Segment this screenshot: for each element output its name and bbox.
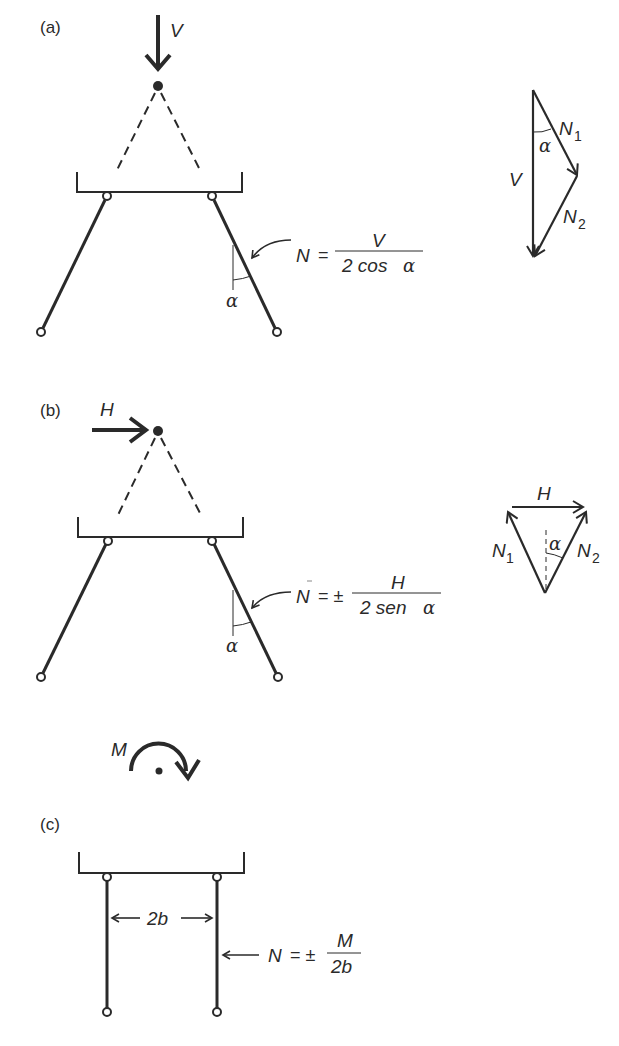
angle-alpha-label: α: [226, 635, 238, 656]
moment-point: [156, 768, 163, 775]
leg-left: [43, 200, 105, 328]
panel-a-label: (a): [40, 18, 61, 37]
svg-text:N: N: [492, 540, 506, 561]
svg-text:1: 1: [506, 550, 514, 566]
svg-text:N: N: [296, 245, 310, 266]
beam: [78, 517, 243, 537]
pin-icon: [37, 328, 45, 336]
pin-icon: [37, 673, 45, 681]
leg-left: [43, 544, 106, 673]
svg-text:H: H: [537, 483, 551, 504]
panel-b-label: (b): [40, 401, 61, 420]
pin-icon: [103, 192, 111, 200]
panel-b: (b) H α N = ± H 2 sen α: [37, 399, 600, 681]
load-arrow-v-icon: [146, 15, 170, 69]
panel-a: (a) V α N = V 2 cos: [37, 15, 586, 336]
moment-label: M: [111, 739, 127, 760]
svg-text:2 cos: 2 cos: [341, 255, 388, 276]
svg-text:V: V: [372, 230, 387, 251]
structural-diagram: (a) V α N = V 2 cos: [0, 0, 619, 1046]
formula-b: N = ± H 2 sen α: [296, 572, 441, 618]
pin-icon: [274, 673, 282, 681]
pin-icon: [208, 537, 216, 545]
svg-text:α: α: [403, 255, 415, 276]
svg-text:M: M: [337, 930, 353, 951]
angle-alpha-label: α: [226, 290, 238, 311]
pointer-arrow-icon: [252, 592, 291, 608]
svg-text:N: N: [268, 945, 282, 966]
load-point: [153, 426, 163, 436]
panel-c: M (c) 2b N = ± M 2b: [40, 739, 361, 1016]
leg-right: [214, 544, 276, 673]
pointer-arrow-icon: [252, 240, 291, 258]
svg-text:= ±: = ±: [318, 586, 344, 606]
moment-arrow-icon: [131, 744, 199, 779]
dashed-line-left: [117, 93, 155, 170]
formula-c: N = ± M 2b: [268, 930, 361, 977]
pin-icon: [208, 192, 216, 200]
angle-arc: [233, 622, 251, 626]
angle-arc: [233, 276, 251, 280]
dashed-line-left: [118, 438, 155, 515]
svg-text:2: 2: [592, 550, 600, 566]
beam: [77, 172, 242, 192]
svg-text:N: N: [577, 540, 591, 561]
leg-right: [214, 200, 275, 328]
dashed-line-right: [161, 93, 200, 170]
load-h-label: H: [100, 399, 114, 420]
svg-text:= ±: = ±: [290, 945, 316, 965]
svg-text:H: H: [391, 572, 405, 593]
pin-icon: [103, 1008, 111, 1016]
panel-c-label: (c): [40, 815, 60, 834]
force-triangle-b: α H N 1 N 2: [492, 483, 600, 593]
dimension-2b: 2b: [112, 908, 212, 929]
beam: [79, 852, 244, 873]
svg-text:2: 2: [578, 216, 586, 232]
svg-text:N: N: [559, 118, 573, 139]
pin-icon: [103, 873, 111, 881]
svg-text:N: N: [296, 586, 310, 607]
svg-text:V: V: [509, 169, 524, 190]
svg-text:N: N: [563, 206, 577, 227]
load-arrow-h-icon: [92, 418, 146, 442]
svg-text:=: =: [318, 245, 329, 265]
pin-icon: [213, 873, 221, 881]
svg-text:1: 1: [574, 128, 582, 144]
force-triangle-a: α V N 1 N 2: [509, 90, 586, 256]
svg-text:α: α: [539, 135, 551, 156]
svg-text:2b: 2b: [330, 956, 352, 977]
svg-text:α: α: [549, 533, 561, 554]
pin-icon: [273, 328, 281, 336]
svg-text:α: α: [423, 597, 435, 618]
load-v-label: V: [170, 20, 185, 41]
svg-text:2b: 2b: [146, 908, 168, 929]
dashed-line-right: [161, 438, 201, 515]
svg-text:2 sen: 2 sen: [359, 597, 406, 618]
pin-icon: [104, 537, 112, 545]
formula-a: N = V 2 cos α: [296, 230, 423, 276]
load-point: [153, 81, 163, 91]
pin-icon: [213, 1008, 221, 1016]
